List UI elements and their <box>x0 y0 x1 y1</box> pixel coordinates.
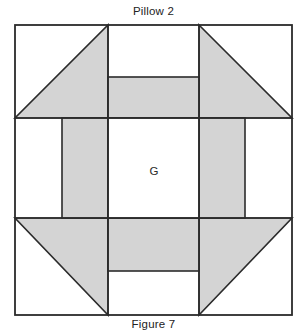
sashing-bar-bottom <box>108 218 199 271</box>
quilt-block-figure: Pillow 2 G Figure 7 <box>0 0 307 334</box>
sashing-bar-right <box>199 118 245 218</box>
quilt-block-diagram: G <box>0 0 307 334</box>
figure-caption: Figure 7 <box>0 317 307 331</box>
sashing-bar-top <box>108 77 199 118</box>
center-patch-label: G <box>150 165 159 177</box>
sashing-bar-left <box>62 118 108 218</box>
